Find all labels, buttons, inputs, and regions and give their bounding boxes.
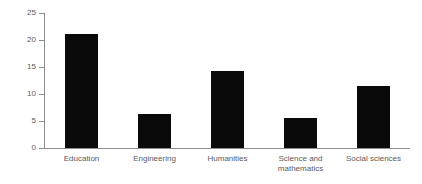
y-axis-tick bbox=[39, 121, 44, 122]
bar-slot bbox=[357, 13, 389, 148]
y-axis-tick bbox=[39, 13, 44, 14]
y-axis-tick-label: 10 bbox=[6, 90, 36, 98]
y-axis-tick-label: 5 bbox=[6, 117, 36, 125]
y-axis-tick bbox=[39, 94, 44, 95]
y-axis-tick bbox=[39, 40, 44, 41]
y-axis-tick bbox=[39, 67, 44, 68]
x-axis-category-label: Science and mathematics bbox=[264, 154, 337, 174]
x-axis-category-label: Education bbox=[45, 154, 118, 164]
bar-slot bbox=[284, 13, 316, 148]
bar[interactable] bbox=[211, 71, 243, 148]
y-axis-tick-label: 25 bbox=[6, 9, 36, 17]
y-axis-tick-label: 20 bbox=[6, 36, 36, 44]
x-axis-category-label: Social sciences bbox=[337, 154, 410, 164]
y-axis-tick bbox=[39, 148, 44, 149]
plot-area bbox=[45, 13, 410, 148]
bar-slot bbox=[65, 13, 97, 148]
bar[interactable] bbox=[65, 34, 97, 148]
bar[interactable] bbox=[138, 114, 170, 148]
y-axis-tick-label: 0 bbox=[6, 144, 36, 152]
x-axis-line bbox=[44, 148, 410, 149]
bar-slot bbox=[211, 13, 243, 148]
x-axis-category-label: Engineering bbox=[118, 154, 191, 164]
bar-chart: Percent 0510152025 EducationEngineeringH… bbox=[0, 0, 422, 184]
y-axis-tick-label: 15 bbox=[6, 63, 36, 71]
bar-slot bbox=[138, 13, 170, 148]
bar[interactable] bbox=[284, 118, 316, 148]
bar[interactable] bbox=[357, 86, 389, 148]
x-axis-category-label: Humanities bbox=[191, 154, 264, 164]
